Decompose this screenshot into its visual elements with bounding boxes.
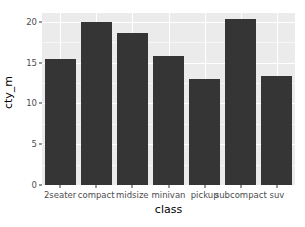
x-tick-label-2seater: 2seater xyxy=(44,190,76,200)
bar-minivan xyxy=(153,56,184,185)
x-tick-label-compact: compact xyxy=(78,190,115,200)
y-tick-label: 15 xyxy=(26,58,37,68)
x-tick-mark xyxy=(168,185,169,188)
y-axis: 05101520 xyxy=(18,0,42,227)
x-axis: 2seatercompactmidsizeminivanpickupsubcom… xyxy=(42,185,295,205)
bar-compact xyxy=(81,22,112,185)
bar-subcompact xyxy=(225,19,256,185)
bar-midsize xyxy=(117,33,148,185)
x-tick-mark xyxy=(60,185,61,188)
plot-panel xyxy=(42,13,295,185)
y-axis-title: cty_m xyxy=(0,0,18,185)
x-tick-mark xyxy=(132,185,133,188)
bar-suv xyxy=(261,76,292,185)
x-axis-title: class xyxy=(42,203,295,216)
y-axis-title-label: cty_m xyxy=(3,76,16,109)
x-tick-mark xyxy=(204,185,205,188)
bar-chart: cty_m 05101520 2seatercompactmidsizemini… xyxy=(0,0,305,227)
x-tick-mark xyxy=(96,185,97,188)
y-tick-label: 20 xyxy=(26,17,37,27)
x-tick-label-midsize: midsize xyxy=(116,190,149,200)
x-axis-title-label: class xyxy=(155,203,182,216)
x-tick-mark xyxy=(240,185,241,188)
x-tick-mark xyxy=(276,185,277,188)
y-tick-label: 0 xyxy=(32,180,37,190)
y-tick-label: 5 xyxy=(32,139,37,149)
x-tick-label-subcompact: subcompact xyxy=(215,190,267,200)
bar-2seater xyxy=(45,59,76,185)
x-tick-label-minivan: minivan xyxy=(151,190,185,200)
bar-series xyxy=(42,13,295,185)
bar-pickup xyxy=(189,79,220,185)
x-tick-label-suv: suv xyxy=(269,190,284,200)
y-tick-label: 10 xyxy=(26,98,37,108)
